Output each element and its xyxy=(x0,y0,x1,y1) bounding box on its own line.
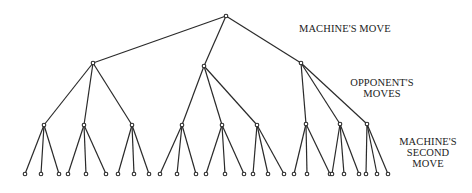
tree-edge xyxy=(44,125,59,174)
machine-second-move-node xyxy=(220,123,224,127)
tree-edge xyxy=(301,63,306,124)
tree-edge xyxy=(160,125,182,174)
machine-second-move-node xyxy=(42,123,46,127)
tree-edge xyxy=(118,125,132,174)
leaf-node xyxy=(342,172,346,176)
leaf-node xyxy=(116,172,120,176)
tree-edge xyxy=(306,124,330,174)
leaf-node xyxy=(39,172,43,176)
leaf-node xyxy=(147,172,151,176)
label-line: OPPONENT'S xyxy=(344,77,420,88)
label-opponents-moves: OPPONENT'S MOVES xyxy=(344,77,420,99)
tree-edge xyxy=(204,16,226,66)
tree-edge xyxy=(204,66,222,125)
tree-edge xyxy=(366,124,367,174)
tree-edge xyxy=(204,66,257,125)
tree-edge xyxy=(84,125,86,174)
label-machines-move: MACHINE'S MOVE xyxy=(299,23,391,34)
tree-edge xyxy=(226,16,301,63)
label-line: MOVE xyxy=(384,158,472,169)
leaf-node xyxy=(330,172,334,176)
leaf-node xyxy=(175,172,179,176)
tree-edge xyxy=(93,16,226,63)
machine-second-move-node xyxy=(255,123,259,127)
leaf-node xyxy=(242,172,246,176)
machine-second-move-node xyxy=(365,122,369,126)
label-line: SECOND xyxy=(384,147,472,158)
machine-second-move-node xyxy=(304,122,308,126)
leaf-node xyxy=(223,172,227,176)
leaf-node xyxy=(23,172,27,176)
tree-edge xyxy=(93,63,132,125)
machine-second-move-node xyxy=(180,123,184,127)
tree-edge xyxy=(222,125,225,174)
tree-edges xyxy=(25,16,388,174)
opponent-move-node xyxy=(202,64,206,68)
tree-edge xyxy=(222,125,244,174)
tree-edge xyxy=(177,125,182,174)
tree-edge xyxy=(367,124,377,174)
tree-edge xyxy=(182,125,196,174)
root-node xyxy=(224,14,228,18)
leaf-node xyxy=(204,172,208,176)
label-line: MOVES xyxy=(344,88,420,99)
machine-second-move-node xyxy=(82,123,86,127)
leaf-node xyxy=(84,172,88,176)
leaf-node xyxy=(266,172,270,176)
leaf-node xyxy=(292,172,296,176)
opponent-move-node xyxy=(91,61,95,65)
leaf-node xyxy=(364,172,368,176)
leaf-node xyxy=(282,172,286,176)
opponent-move-node xyxy=(299,61,303,65)
leaf-node xyxy=(305,172,309,176)
machine-second-move-node xyxy=(338,122,342,126)
leaf-node xyxy=(66,172,70,176)
label-line: MACHINE'S xyxy=(384,136,472,147)
leaf-node xyxy=(386,172,390,176)
tree-edge xyxy=(84,125,106,174)
tree-edge xyxy=(132,125,149,174)
tree-edge xyxy=(206,125,222,174)
tree-edge xyxy=(332,124,340,174)
leaf-node xyxy=(104,172,108,176)
leaf-node xyxy=(375,172,379,176)
tree-edge xyxy=(257,125,284,174)
tree-edge xyxy=(132,125,134,174)
leaf-node xyxy=(251,172,255,176)
tree-edge xyxy=(182,66,204,125)
machine-second-move-node xyxy=(130,123,134,127)
leaf-node xyxy=(194,172,198,176)
tree-edge xyxy=(253,125,257,174)
tree-edge xyxy=(257,125,268,174)
tree-edge xyxy=(294,124,306,174)
leaf-node xyxy=(158,172,162,176)
leaf-node xyxy=(132,172,136,176)
leaf-node xyxy=(57,172,61,176)
label-machines-second-move: MACHINE'S SECOND MOVE xyxy=(384,136,472,169)
tree-edge xyxy=(306,124,307,174)
label-line: MACHINE'S MOVE xyxy=(299,23,391,34)
leaf-node xyxy=(357,172,361,176)
game-tree-diagram: MACHINE'S MOVE OPPONENT'S MOVES MACHINE'… xyxy=(0,0,472,193)
tree-edge xyxy=(68,125,84,174)
